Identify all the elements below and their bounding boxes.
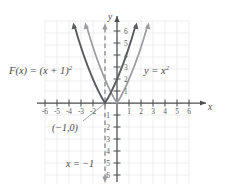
x-tick-label: 4 — [163, 107, 167, 116]
x-axis-arrowhead — [200, 100, 206, 105]
y-axis-name: y — [107, 12, 113, 22]
y-tick-label: 6 — [106, 171, 110, 180]
x-tick-label: 6 — [187, 107, 191, 116]
dashed-line-arrow-top — [102, 23, 107, 30]
vertex-point-label: (−1,0) — [52, 122, 79, 134]
y-tick-label: 6 — [124, 27, 128, 36]
y-axis-arrowhead — [114, 16, 119, 22]
x-tick-label: 1 — [127, 107, 131, 116]
y-tick-label: 5 — [106, 159, 110, 168]
x-tick-label: 3 — [151, 107, 155, 116]
x-tick-label: -5 — [54, 107, 60, 116]
coordinate-plane-svg: x y -6 -5 -4 -3 -2 1 2 3 4 5 6 6 5 4 3 2… — [0, 0, 228, 193]
y-tick-label: 1 — [106, 111, 110, 120]
y-tick-label: 1 — [124, 87, 128, 96]
x-tick-label: 5 — [175, 107, 179, 116]
x-tick-label: -4 — [66, 107, 72, 116]
axes — [37, 16, 206, 182]
equation-label-y-exponent: 2 — [166, 64, 170, 72]
x-axis-name: x — [207, 102, 213, 112]
y-tick-label: 4 — [106, 147, 110, 156]
equation-label-f-of-x: F(x) = (x + 1)2 — [8, 64, 73, 77]
y-tick-label: 3 — [124, 63, 128, 72]
y-tick-label: 4 — [124, 51, 128, 60]
y-tick-label: 3 — [106, 135, 110, 144]
equation-label-y-text: y = x — [143, 65, 166, 76]
axis-of-symmetry-label: x = −1 — [65, 158, 94, 169]
x-tick-label: 2 — [139, 107, 143, 116]
y-tick-label: 5 — [124, 39, 128, 48]
y-tick-label: 2 — [124, 75, 128, 84]
x-tick-label: -2 — [90, 107, 96, 116]
y-tick-labels-negative: 1 2 3 4 5 6 — [106, 111, 110, 180]
graph-figure: x y -6 -5 -4 -3 -2 1 2 3 4 5 6 6 5 4 3 2… — [0, 0, 228, 193]
x-tick-label: -3 — [78, 107, 84, 116]
x-tick-label: -6 — [42, 107, 48, 116]
y-tick-label: 2 — [106, 123, 110, 132]
equation-label-f-of-x-text: F(x) = (x + 1) — [8, 65, 69, 77]
equation-label-y-equals-x-squared: y = x2 — [143, 64, 170, 76]
equation-label-f-of-x-exponent: 2 — [69, 64, 73, 72]
